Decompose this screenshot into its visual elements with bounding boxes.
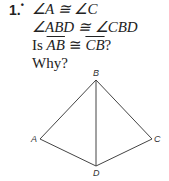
segment-cd-line	[96, 139, 152, 166]
vertex-label-b: B	[93, 68, 99, 78]
segment-bc-line	[96, 80, 152, 139]
segment-ab-line	[40, 80, 96, 139]
kite-figure	[0, 0, 169, 181]
vertex-label-a: A	[31, 134, 37, 144]
vertex-label-d: D	[93, 168, 100, 178]
segment-ad-line	[40, 139, 96, 166]
vertex-label-c: C	[154, 134, 161, 144]
